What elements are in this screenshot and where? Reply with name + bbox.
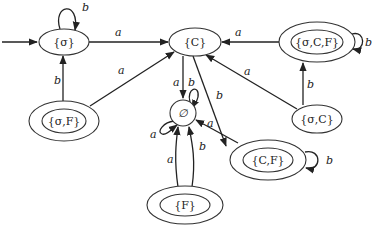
edge-label-sigmaCF-loop: b (365, 36, 372, 49)
state-label-sigma-C-F: {σ,C,F} (295, 36, 339, 49)
edge-label-sigmaC-to-C: a (244, 65, 251, 78)
edge-label-sigmaF-to-sigma: b (54, 74, 61, 87)
state-C-F: {C,F} (230, 140, 306, 180)
edge-F-to-empty-a (176, 127, 178, 187)
state-label-sigma: {σ} (53, 36, 75, 49)
edge-sigma-loop (59, 9, 76, 30)
state-sigma-C: {σ,C} (292, 105, 342, 133)
state-label-F: {F} (174, 199, 196, 212)
automaton-diagram: b a b a a b b a a b b a a a b b {σ} (0, 0, 375, 226)
edge-label-C-to-empty: a (173, 76, 180, 89)
state-sigma: {σ} (39, 29, 89, 55)
edge-label-C-to-CF: b (216, 89, 223, 102)
edge-label-CF-to-empty: a (207, 117, 214, 130)
state-empty: ∅ (170, 100, 196, 126)
edge-label-sigmaF-to-C: a (118, 64, 125, 77)
state-sigma-C-F: {σ,C,F} (279, 22, 355, 62)
edge-label-CF-loop: b (326, 154, 333, 167)
state-label-sigma-C: {σ,C} (300, 113, 333, 126)
state-F: {F} (147, 186, 223, 224)
edge-CF-loop (305, 152, 318, 169)
state-C: {C} (169, 28, 221, 56)
edge-label-F-to-empty-b: b (199, 140, 206, 153)
state-label-sigma-F: {σ,F} (48, 115, 81, 128)
edge-label-sigma-loop: b (82, 1, 89, 14)
edge-F-to-empty-b (189, 127, 194, 187)
state-label-C: {C} (184, 36, 206, 49)
edge-label-F-to-empty-a: a (167, 153, 174, 166)
edge-label-empty-loop-a: a (150, 128, 157, 141)
state-label-empty: ∅ (178, 107, 188, 120)
edge-label-sigmaC-to-sigmaCF: b (307, 78, 314, 91)
edge-sigmaF-to-C (90, 52, 174, 106)
state-sigma-F: {σ,F} (29, 101, 99, 141)
edge-label-empty-loop-b: b (188, 76, 195, 89)
edge-label-sigmaCF-to-C: a (235, 26, 242, 39)
state-label-C-F: {C,F} (251, 154, 284, 167)
edge-label-sigma-to-C: a (115, 26, 122, 39)
